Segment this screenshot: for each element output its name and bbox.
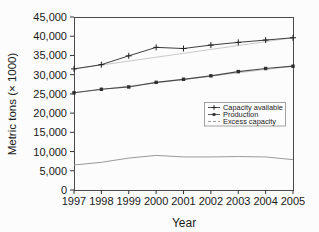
legend-marker-square xyxy=(213,113,216,116)
marker-square-production xyxy=(209,74,212,77)
x-tick-label: 1997 xyxy=(62,195,86,207)
marker-square-production xyxy=(182,78,185,81)
marker-square-production xyxy=(154,81,157,84)
marker-plus-capacity-available xyxy=(235,39,241,45)
x-tick-label: 2001 xyxy=(171,195,195,207)
y-tick-label: 30,000 xyxy=(33,69,67,81)
x-tick-label: 2002 xyxy=(199,195,223,207)
marker-plus-capacity-available xyxy=(290,35,296,41)
marker-square-production xyxy=(237,70,240,73)
capacity-chart-svg: Metric tons (× 1000) Year 05,00010,00015… xyxy=(0,0,319,232)
straight-line-capacity-available xyxy=(74,38,293,69)
y-tick-label: 40,000 xyxy=(33,30,67,42)
marker-plus-capacity-available xyxy=(153,44,159,50)
x-tick-label: 2003 xyxy=(226,195,250,207)
marker-plus-capacity-available xyxy=(98,62,104,68)
y-tick-label: 25,000 xyxy=(33,88,67,100)
y-axis-title: Metric tons (× 1000) xyxy=(6,53,18,156)
y-tick-label: 5,000 xyxy=(39,165,67,177)
series-line-excess-capacity xyxy=(74,155,293,165)
x-tick-label: 1999 xyxy=(117,195,141,207)
x-tick-label: 2005 xyxy=(281,195,305,207)
y-tick-label: 15,000 xyxy=(33,126,67,138)
y-tick-label: 45,000 xyxy=(33,11,67,23)
marker-plus-capacity-available xyxy=(71,66,77,72)
x-tick-label: 2004 xyxy=(253,195,277,207)
y-tick-label: 35,000 xyxy=(33,49,67,61)
marker-square-production xyxy=(127,85,130,88)
marker-plus-capacity-available xyxy=(126,53,132,59)
marker-square-production xyxy=(291,65,294,68)
marker-square-production xyxy=(264,67,267,70)
capacity-chart-figure: Metric tons (× 1000) Year 05,00010,00015… xyxy=(0,0,319,232)
marker-plus-capacity-available xyxy=(208,42,214,48)
x-axis-title: Year xyxy=(172,216,196,230)
marker-square-production xyxy=(100,88,103,91)
y-tick-label: 10,000 xyxy=(33,146,67,158)
marker-square-production xyxy=(72,91,75,94)
y-tick-label: 20,000 xyxy=(33,107,67,119)
x-tick-label: 2000 xyxy=(144,195,168,207)
x-tick-label: 1998 xyxy=(89,195,113,207)
legend-label-excess-capacity: Excess capacity xyxy=(223,117,276,126)
marker-plus-capacity-available xyxy=(181,46,187,52)
